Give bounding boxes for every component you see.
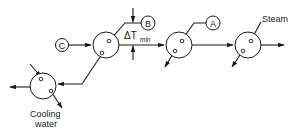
delta-t-label: ΔT (124, 30, 137, 41)
cooling-water-label-line1: Cooling (30, 109, 61, 119)
exchanger-1 (93, 32, 119, 58)
stream-c-node: C (56, 39, 69, 52)
heat-exchanger-network-diagram: C B A ΔT min Steam Cooling water (0, 0, 297, 137)
exchanger-2 (166, 32, 192, 58)
stream-a-label: A (210, 19, 216, 29)
cooler-exchanger (30, 73, 56, 99)
steam-label: Steam (262, 14, 288, 24)
exchanger-3 (235, 32, 261, 58)
stream-b-node: B (141, 16, 155, 30)
stream-a-node: A (206, 16, 220, 30)
stream-c-label: C (59, 41, 66, 51)
delta-t-subscript: min (140, 36, 151, 43)
cooling-water-label-line2: water (34, 119, 57, 129)
stream-b-label: B (145, 19, 151, 29)
return-stream (10, 54, 102, 87)
